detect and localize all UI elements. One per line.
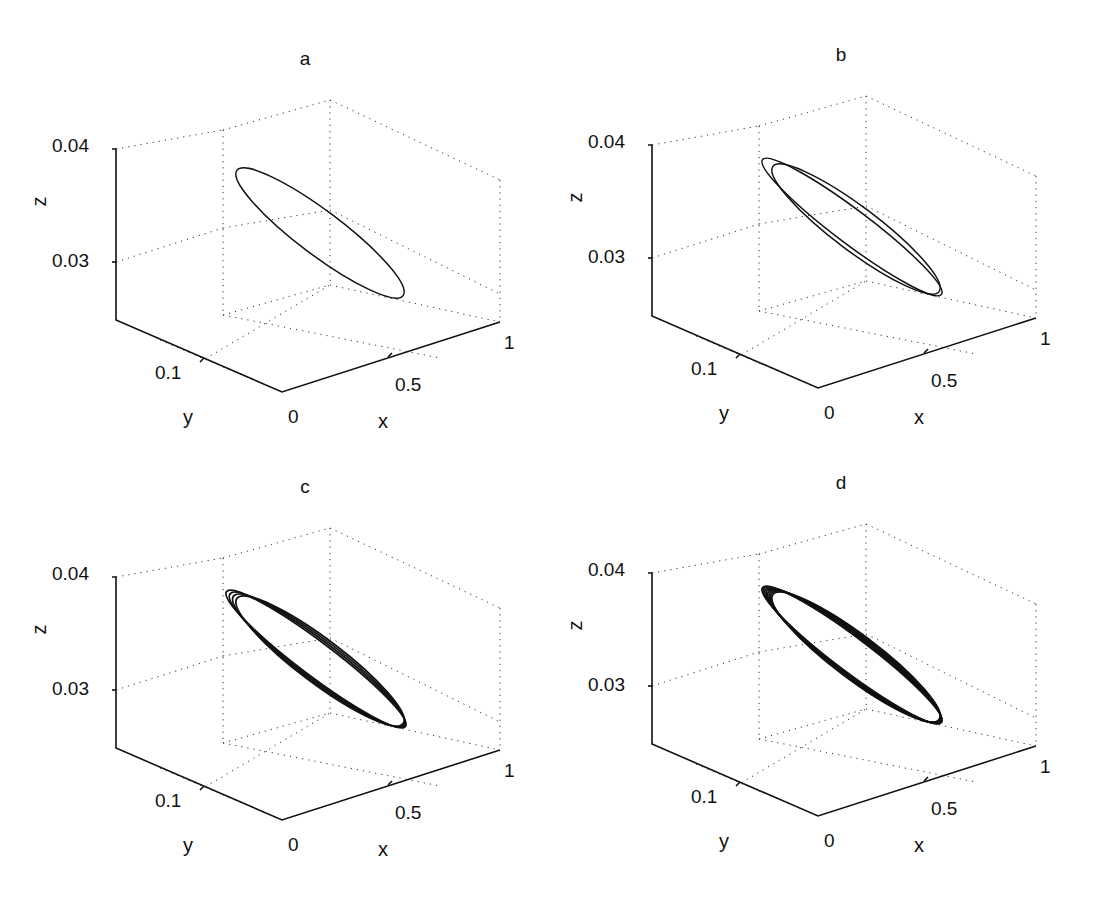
x-axis-label: x xyxy=(914,406,924,429)
y-tick-0.1: 0.1 xyxy=(155,790,181,812)
z-tick-0.03: 0.03 xyxy=(52,250,89,272)
panel-title: d xyxy=(821,472,861,494)
z-axis-label: z xyxy=(28,197,51,207)
x-tick-0: 0 xyxy=(824,830,835,852)
x-tick-1: 1 xyxy=(504,760,515,782)
panel-c: c 0.04 0.03 z 0.1 y 0 0.5 1 x xyxy=(20,468,560,898)
z-tick-0.03: 0.03 xyxy=(588,246,625,268)
y-tick-0.1: 0.1 xyxy=(155,362,181,384)
y-axis-label: y xyxy=(719,830,729,853)
x-tick-0.5: 0.5 xyxy=(395,374,421,396)
z-tick-0.04: 0.04 xyxy=(52,563,89,585)
y-tick-0.1: 0.1 xyxy=(691,786,717,808)
x-tick-1: 1 xyxy=(1040,328,1051,350)
x-tick-0: 0 xyxy=(288,406,299,428)
z-tick-0.04: 0.04 xyxy=(588,131,625,153)
y-tick-0.1: 0.1 xyxy=(691,358,717,380)
x-tick-0: 0 xyxy=(288,834,299,856)
x-tick-0: 0 xyxy=(824,402,835,424)
z-tick-0.04: 0.04 xyxy=(52,135,89,157)
x-axis-label: x xyxy=(914,834,924,857)
panel-title: c xyxy=(285,476,325,498)
x-tick-0.5: 0.5 xyxy=(931,798,957,820)
x-tick-1: 1 xyxy=(1040,756,1051,778)
panel-d: d 0.04 0.03 z 0.1 y 0 0.5 1 x xyxy=(556,464,1096,894)
panel-title: a xyxy=(285,48,325,70)
x-axis-label: x xyxy=(378,838,388,861)
x-tick-1: 1 xyxy=(504,332,515,354)
panel-b: b 0.04 0.03 z 0.1 y 0 0.5 1 x xyxy=(556,36,1096,466)
z-axis-label: z xyxy=(564,621,587,631)
z-axis-label: z xyxy=(28,625,51,635)
y-axis-label: y xyxy=(183,834,193,857)
z-tick-0.03: 0.03 xyxy=(588,674,625,696)
y-axis-label: y xyxy=(183,406,193,429)
x-tick-0.5: 0.5 xyxy=(395,802,421,824)
x-tick-0.5: 0.5 xyxy=(931,370,957,392)
panel-a: a 0.04 0.03 z 0.1 y 0 0.5 1 x xyxy=(20,40,560,470)
panel-title: b xyxy=(821,44,861,66)
z-tick-0.04: 0.04 xyxy=(588,559,625,581)
y-axis-label: y xyxy=(719,402,729,425)
z-axis-label: z xyxy=(564,193,587,203)
x-axis-label: x xyxy=(378,410,388,433)
z-tick-0.03: 0.03 xyxy=(52,678,89,700)
